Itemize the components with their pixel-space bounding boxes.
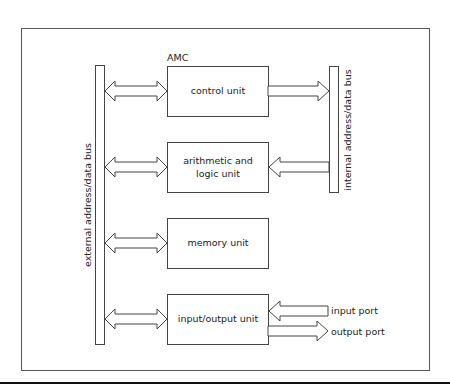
arrow-input-port-to-io [269,301,328,321]
bidirectional-arrow-io [105,309,167,329]
alu-unit: arithmetic and logic unit [168,143,269,193]
amc-block-diagram: AMC external address/data bus internal a… [0,0,450,385]
bidirectional-arrow-memory [105,233,167,253]
control-unit: control unit [168,67,269,117]
alu-label-line-1: arithmetic and [183,155,253,166]
alu-label-line-2: logic unit [196,168,240,179]
external-bus-label: external address/data bus [82,143,93,267]
diagram-title: AMC [167,52,189,63]
control-unit-label: control unit [191,85,246,96]
arrow-io-to-output-port [268,321,328,341]
bidirectional-arrow-control [105,81,167,101]
input-port-label: input port [331,305,378,316]
bidirectional-arrow-alu [105,157,167,177]
memory-unit-label: memory unit [187,237,248,248]
io-unit-label: input/output unit [178,313,259,324]
io-unit: input/output unit [168,295,269,345]
external-bus [96,66,105,345]
output-port-label: output port [331,326,385,337]
internal-bus [330,67,339,193]
internal-bus-label: internal address/data bus [342,69,353,190]
arrow-control-to-internal-bus [268,81,329,101]
memory-unit: memory unit [168,219,269,269]
arrow-internal-bus-to-alu [269,157,329,177]
